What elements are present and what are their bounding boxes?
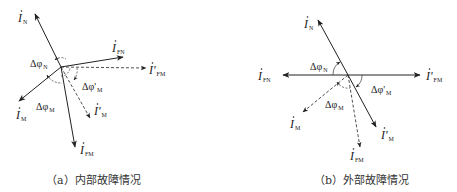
vector-iprime--fm [61, 67, 146, 68]
vector-label: IFN [257, 69, 271, 83]
angle-label-delta-phi-prime-M: Δφ'M [82, 81, 103, 93]
caption-b: （b）外部故障情况 [314, 171, 409, 187]
vector-label: IN [17, 11, 28, 25]
panel-external-fault: ΔφNΔφ'MΔφM INI'FMIFNIMI'MIFM [257, 16, 443, 163]
angle-label-delta-phi-N: ΔφN [30, 58, 48, 70]
vector-label: I'M [380, 128, 395, 142]
vector-label: I'FM [425, 69, 443, 83]
angle-label-delta-phi-M: ΔφM [325, 99, 344, 111]
angle-labels-b: ΔφNΔφ'MΔφM [310, 61, 392, 111]
vector-label: I'FM [148, 63, 166, 77]
angle-arcs-a [47, 58, 77, 83]
vector-i-fm [61, 67, 75, 147]
angle-label-delta-phi-N: ΔφN [310, 61, 328, 73]
phasor-diagram: ΔφNΔφ'MΔφM INIFNI'FMIMI'MIFM ΔφNΔφ'MΔφM … [0, 0, 457, 192]
vector-i-fn [61, 57, 123, 67]
vector-label: IM [15, 108, 27, 122]
vector-labels-b: INI'FMIFNIMI'MIFM [257, 16, 443, 163]
vector-label: IFM [349, 149, 364, 163]
vectors-b [283, 20, 420, 147]
vector-label: IM [289, 117, 301, 131]
vector-i-m [19, 67, 61, 101]
angle-label-delta-phi-prime-M: Δφ'M [371, 84, 392, 96]
vector-label: IFM [79, 143, 94, 157]
vector-label: I'M [93, 104, 108, 118]
vector-label: IN [303, 17, 314, 31]
panel-internal-fault: ΔφNΔφ'MΔφM INIFNI'FMIMI'MIFM [15, 10, 166, 157]
angle-label-delta-phi-M: ΔφM [36, 101, 55, 113]
vector-label: IFN [111, 41, 125, 55]
caption-a: （a）内部故障情况 [46, 171, 141, 187]
